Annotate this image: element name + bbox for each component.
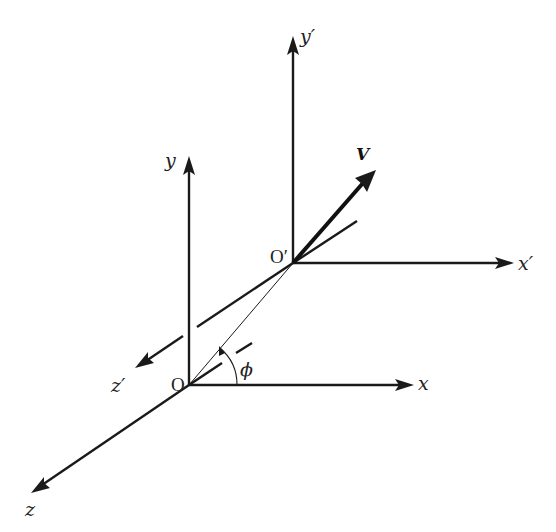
z-axis [42, 385, 189, 485]
z-prime-axis-segment-1 [197, 263, 293, 327]
y-prime-axis-label: y′ [299, 25, 316, 47]
origin-o-label: O [171, 374, 185, 395]
frame-o [31, 156, 414, 493]
z-axis-extension-dash [236, 343, 252, 353]
z-axis-label: z [24, 498, 36, 520]
angle-phi-arrowhead [219, 346, 225, 356]
x-axis-label: x [418, 372, 429, 394]
y-axis-label: y [164, 149, 176, 171]
z-axis-arrowhead [31, 477, 50, 493]
z-prime-axis-segment-2 [146, 336, 183, 361]
angle-phi-label: ϕ [240, 358, 253, 380]
velocity-label: V [356, 144, 371, 164]
origin-o-prime-label: O′ [270, 246, 288, 267]
z-prime-axis-arrowhead [135, 352, 154, 368]
x-prime-axis-label: x′ [518, 252, 534, 274]
z-prime-axis-label: z′ [110, 374, 126, 396]
frame-o-prime [135, 36, 514, 368]
reference-frames-diagram: y x z O y′ x′ z′ O′ V ϕ [0, 0, 556, 532]
